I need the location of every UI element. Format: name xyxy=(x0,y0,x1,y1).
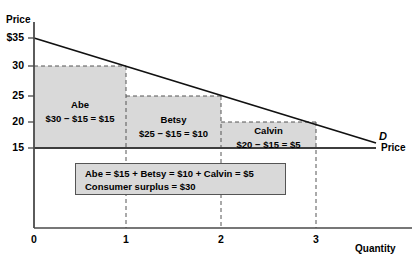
x-tick-label-1: 1 xyxy=(116,233,136,245)
y-tick-label-35: $35 xyxy=(0,31,24,43)
surplus-block-calc-betsy: $25 − $15 = $10 xyxy=(126,127,221,141)
surplus-block-label-calvin: Calvin $20 − $15 = $5 xyxy=(221,124,316,152)
y-tick-label-30: 30 xyxy=(0,59,24,71)
surplus-block-label-abe: Abe $30 − $15 = $15 xyxy=(34,98,126,126)
consumer-surplus-summary-box: Abe = $15 + Betsy = $10 + Calvin = $5 Co… xyxy=(75,163,286,195)
surplus-block-name-betsy: Betsy xyxy=(126,113,221,127)
y-tick-label-25: 25 xyxy=(0,89,24,101)
price-line-label: Price xyxy=(381,142,405,153)
x-tick-label-3: 3 xyxy=(306,233,326,245)
surplus-block-calc-abe: $30 − $15 = $15 xyxy=(34,112,126,126)
summary-line-total: Consumer surplus = $30 xyxy=(85,180,285,193)
y-axis-title: Price xyxy=(6,14,30,25)
summary-line-components: Abe = $15 + Betsy = $10 + Calvin = $5 xyxy=(85,167,285,180)
surplus-block-name-calvin: Calvin xyxy=(221,124,316,138)
x-axis-title: Quantity xyxy=(355,243,396,254)
y-tick-label-20: 20 xyxy=(0,115,24,127)
surplus-block-name-abe: Abe xyxy=(34,98,126,112)
surplus-block-calc-calvin: $20 − $15 = $5 xyxy=(221,138,316,152)
demand-curve-label: D xyxy=(379,130,387,142)
x-tick-label-0: 0 xyxy=(24,233,44,245)
x-tick-label-2: 2 xyxy=(211,233,231,245)
consumer-surplus-chart: Price Quantity $35 30 25 20 15 0 1 2 3 A… xyxy=(0,0,417,265)
surplus-block-label-betsy: Betsy $25 − $15 = $10 xyxy=(126,113,221,141)
y-tick-label-15: 15 xyxy=(0,141,24,153)
